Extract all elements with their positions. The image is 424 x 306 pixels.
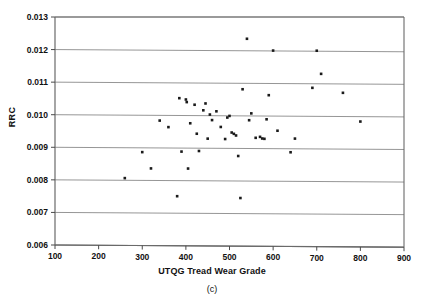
gridline-y bbox=[55, 82, 404, 84]
data-point bbox=[219, 126, 222, 129]
x-tick-label: 400 bbox=[179, 252, 193, 262]
data-point bbox=[209, 113, 212, 116]
data-point bbox=[195, 132, 198, 135]
data-point bbox=[185, 98, 188, 101]
gridline-y bbox=[55, 147, 404, 149]
y-tick-label: 0.006 bbox=[27, 240, 49, 250]
data-point bbox=[124, 177, 127, 180]
x-tick-label: 500 bbox=[222, 252, 236, 262]
data-point bbox=[193, 103, 196, 106]
data-point bbox=[289, 151, 292, 154]
gridline-y bbox=[55, 212, 404, 214]
data-point bbox=[254, 137, 257, 140]
gridline-y bbox=[55, 180, 404, 182]
scatter-plot: 0.0060.0070.0080.0090.0100.0110.0120.013… bbox=[0, 0, 424, 306]
data-point bbox=[248, 119, 251, 122]
data-point bbox=[185, 101, 188, 104]
data-point bbox=[167, 126, 170, 129]
data-point bbox=[189, 122, 192, 125]
y-tick-label: 0.013 bbox=[27, 12, 49, 22]
x-tick-label: 100 bbox=[48, 251, 62, 261]
panel-caption: (c) bbox=[0, 284, 424, 294]
data-point bbox=[141, 151, 144, 154]
y-tick-label: 0.009 bbox=[27, 142, 49, 152]
data-point bbox=[342, 92, 345, 95]
gridline-y bbox=[55, 50, 404, 52]
data-point bbox=[198, 150, 201, 153]
x-tick-label: 800 bbox=[353, 253, 367, 263]
x-axis-label: UTQG Tread Wear Grade bbox=[0, 266, 424, 276]
data-point bbox=[215, 110, 218, 113]
data-point bbox=[150, 167, 153, 170]
data-point bbox=[228, 115, 231, 118]
data-point bbox=[187, 167, 190, 170]
y-tick-label: 0.012 bbox=[27, 45, 49, 55]
data-point bbox=[241, 88, 244, 91]
x-tick-label: 300 bbox=[135, 252, 149, 262]
data-point bbox=[267, 94, 270, 97]
data-point bbox=[211, 119, 214, 122]
data-point bbox=[359, 120, 362, 123]
data-point bbox=[178, 97, 181, 100]
data-point bbox=[265, 118, 268, 121]
x-tick-label: 700 bbox=[310, 253, 324, 263]
figure-panel-c: 0.0060.0070.0080.0090.0100.0110.0120.013… bbox=[0, 0, 424, 306]
data-point bbox=[176, 195, 179, 198]
data-point bbox=[315, 49, 318, 52]
data-point bbox=[206, 137, 209, 140]
data-point bbox=[239, 197, 242, 200]
y-tick-label: 0.010 bbox=[27, 110, 49, 120]
data-point bbox=[246, 37, 249, 40]
y-tick-label: 0.008 bbox=[27, 175, 49, 185]
data-point bbox=[235, 134, 238, 137]
y-tick-label: 0.007 bbox=[27, 207, 49, 217]
data-point bbox=[320, 73, 323, 76]
x-tick-label: 600 bbox=[266, 252, 280, 262]
data-point bbox=[204, 102, 207, 105]
data-point bbox=[202, 109, 205, 112]
data-point bbox=[180, 150, 183, 153]
y-axis-label: RRC bbox=[7, 93, 17, 141]
x-tick-label: 900 bbox=[397, 253, 411, 263]
data-point bbox=[272, 49, 275, 52]
data-point bbox=[294, 137, 297, 140]
data-point bbox=[276, 129, 279, 132]
data-point bbox=[311, 87, 314, 90]
data-point bbox=[250, 112, 253, 115]
data-point bbox=[263, 138, 266, 141]
y-tick-label: 0.011 bbox=[27, 77, 48, 87]
data-point bbox=[224, 138, 227, 141]
data-point bbox=[237, 155, 240, 158]
data-point bbox=[158, 119, 161, 122]
x-tick-label: 200 bbox=[92, 251, 106, 261]
